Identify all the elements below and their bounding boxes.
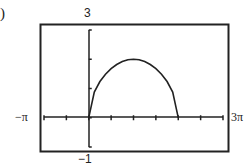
plot-frame [41, 25, 229, 152]
data-curve [89, 59, 179, 118]
plot [0, 0, 246, 167]
